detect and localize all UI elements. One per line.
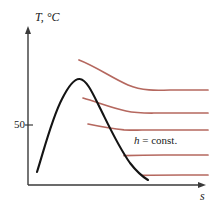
x-axis-arrowhead	[198, 182, 206, 188]
x-axis-label: s	[200, 190, 205, 202]
isenthalp-annotation: h = const.	[134, 135, 177, 146]
y-tick-label-50: 50	[14, 119, 25, 130]
isenthalp-line-4	[124, 155, 208, 156]
ts-diagram-figure: T, °C 50 h = const. s	[0, 0, 219, 208]
isenthalp-annotation-text: = const.	[140, 134, 178, 146]
isenthalp-line-3	[88, 124, 208, 130]
y-axis-arrowhead	[25, 26, 31, 34]
isenthalp-line-1	[79, 60, 208, 90]
y-axis-label: T, °C	[35, 11, 60, 23]
plot-canvas	[0, 0, 219, 208]
